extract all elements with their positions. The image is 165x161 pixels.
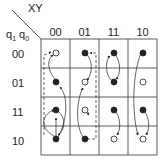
arrow-0111-to-0011 [106,56,112,81]
corner-diagonal [12,10,41,39]
state-filled-11-10 [140,107,146,113]
arrow-1000-to-1100 [44,110,56,137]
state-filled-01-00 [53,79,59,85]
state-filled-11-11 [111,107,117,113]
arrow-1111-to-1011 [114,110,120,135]
state-filled-11-00 [53,107,59,113]
state-open-10-10 [140,136,146,142]
state-filled-10-01 [82,136,88,142]
state-open-01-10 [140,79,146,85]
state-dots [53,50,146,142]
arrow-0010-to-1010 [134,53,141,135]
arrow-0011-to-0111 [114,53,120,79]
state-transition-kmap [0,0,165,161]
state-filled-10-00 [53,136,59,142]
arrow-0100-to-0000 [49,55,56,80]
state-open-11-01 [82,107,88,113]
state-open-01-01 [82,79,88,85]
arrow-1100-to-1000 [56,110,64,135]
arrow-1110-to-1010 [143,110,149,135]
state-filled-00-10 [140,50,146,56]
state-open-10-11 [111,136,117,142]
arrow-0001-to-0101 [85,53,91,80]
state-open-00-00 [53,50,59,56]
state-filled-00-01 [82,50,88,56]
state-filled-01-11 [111,79,117,85]
arrow-1001-to-0101 [78,88,85,139]
state-filled-00-11 [111,50,117,56]
dashed-arrow-col00 [44,52,51,135]
